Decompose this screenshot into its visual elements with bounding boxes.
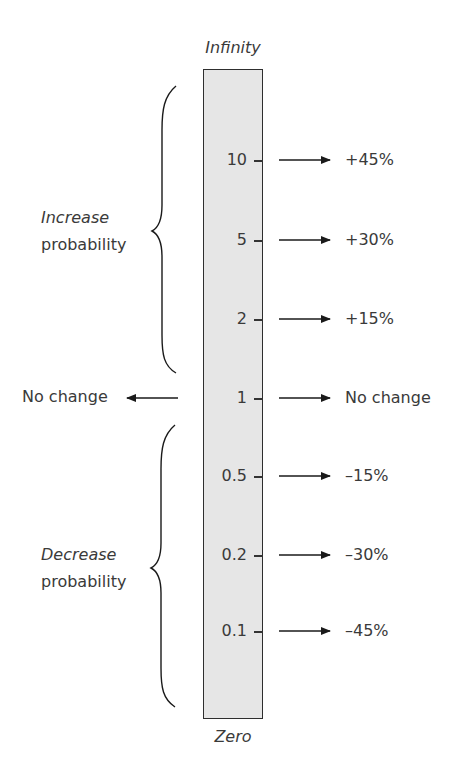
arrows-and-braces	[0, 0, 471, 768]
increase-brace-icon	[152, 86, 176, 373]
decrease-brace-icon	[151, 425, 175, 707]
